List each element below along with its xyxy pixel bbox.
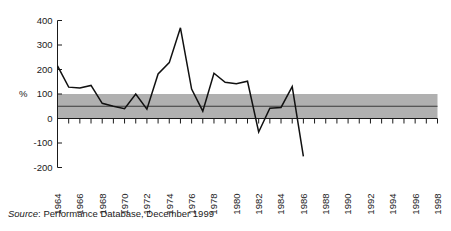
x-tick-label: 1980: [231, 193, 242, 214]
x-tick-label: 1984: [275, 194, 286, 215]
x-tick-label: 1996: [410, 194, 421, 215]
x-tick-label: 1994: [387, 194, 398, 215]
y-tick-label: 200: [37, 64, 53, 75]
y-tick-label: 300: [37, 39, 53, 50]
x-tick-label: 1992: [365, 194, 376, 215]
line-chart: 4003002001000-100-200%196419661968197019…: [0, 0, 451, 231]
source-note-prefix: Source: [8, 208, 38, 219]
x-tick-label: 1982: [253, 194, 264, 215]
series-line-performance: [58, 28, 304, 157]
x-tick-label: 1998: [432, 194, 443, 215]
chart-figure: 4003002001000-100-200%196419661968197019…: [0, 0, 451, 231]
y-tick-label: 400: [37, 15, 53, 26]
y-tick-label: -200: [33, 162, 52, 173]
x-tick-label: 1988: [320, 194, 331, 215]
y-tick-label: 0: [47, 113, 52, 124]
source-note-text: : Performance Database, December 1999: [38, 208, 214, 219]
y-tick-label: -100: [33, 137, 52, 148]
x-tick-label: 1986: [298, 194, 309, 215]
y-axis-label: %: [19, 88, 28, 99]
source-note: Source: Performance Database, December 1…: [8, 207, 214, 220]
x-tick-label: 1990: [342, 194, 353, 215]
y-tick-label: 100: [37, 88, 53, 99]
